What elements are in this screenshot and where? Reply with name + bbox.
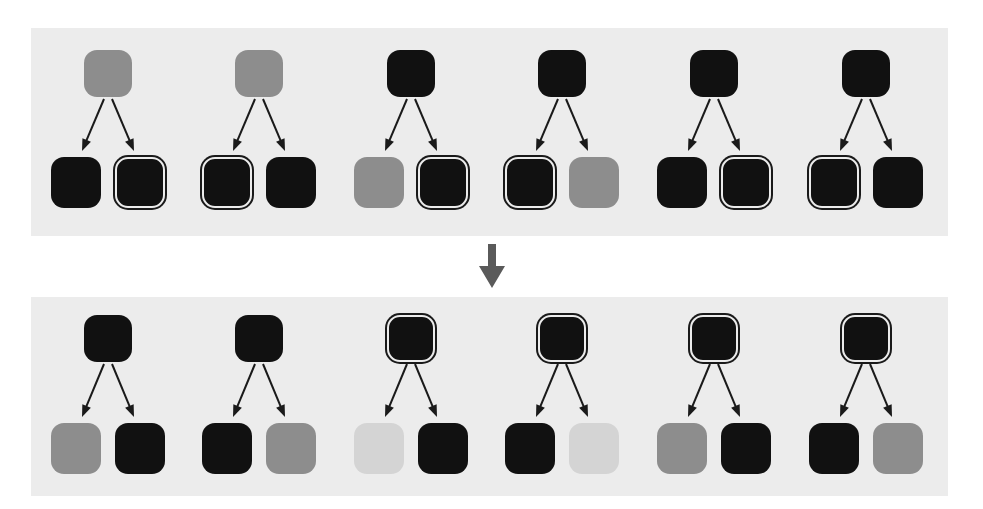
- child-node: [115, 157, 165, 208]
- edge-arrow-head: [125, 404, 134, 417]
- edge-arrow-line: [415, 364, 434, 409]
- down-arrow-icon: [470, 244, 514, 290]
- edge-arrow-line: [263, 364, 282, 409]
- edge-arrow-head: [840, 138, 849, 151]
- child-node: [721, 157, 771, 208]
- edge-arrow-line: [718, 99, 736, 143]
- edge-arrow-head: [731, 404, 740, 417]
- before-panel: [31, 28, 948, 236]
- arrow-layer: [31, 28, 948, 236]
- edge-arrow-line: [870, 99, 888, 143]
- child-node: [657, 423, 707, 474]
- parent-node: [84, 50, 132, 97]
- parent-node: [387, 315, 435, 362]
- parent-node: [235, 50, 283, 97]
- edge-arrow-head: [579, 404, 588, 417]
- parent-node: [842, 315, 890, 362]
- edge-arrow-line: [85, 364, 104, 409]
- parent-node: [842, 50, 890, 97]
- edge-arrow-head: [276, 138, 285, 151]
- edge-arrow-head: [883, 138, 892, 151]
- parent-node: [235, 315, 283, 362]
- edge-arrow-line: [236, 364, 255, 409]
- child-node: [505, 423, 555, 474]
- after-panel: [31, 297, 948, 496]
- edge-arrow-line: [388, 364, 407, 409]
- edge-arrow-line: [540, 99, 558, 143]
- edge-arrow-head: [688, 138, 697, 151]
- child-node: [873, 423, 923, 474]
- edge-arrow-head: [883, 404, 892, 417]
- parent-node: [387, 50, 435, 97]
- child-node: [418, 157, 468, 208]
- child-node: [569, 157, 619, 208]
- edge-arrow-line: [263, 99, 281, 143]
- child-node: [657, 157, 707, 208]
- edge-arrow-line: [843, 364, 862, 409]
- parent-node: [84, 315, 132, 362]
- child-node: [873, 157, 923, 208]
- edge-arrow-head: [536, 138, 545, 151]
- child-node: [266, 157, 316, 208]
- parent-node: [538, 50, 586, 97]
- child-node: [51, 157, 101, 208]
- edge-arrow-line: [566, 364, 585, 409]
- edge-arrow-head: [428, 138, 437, 151]
- child-node: [809, 157, 859, 208]
- edge-arrow-head: [385, 138, 394, 151]
- edge-arrow-head: [276, 404, 285, 417]
- edge-arrow-head: [82, 138, 91, 151]
- edge-arrow-head: [731, 138, 740, 151]
- edge-arrow-head: [840, 404, 849, 417]
- figure-canvas: [0, 0, 983, 509]
- edge-arrow-head: [233, 404, 242, 417]
- edge-arrow-line: [539, 364, 558, 409]
- child-node: [354, 157, 404, 208]
- child-node: [51, 423, 101, 474]
- parent-node: [690, 315, 738, 362]
- edge-arrow-line: [870, 364, 889, 409]
- edge-arrow-line: [691, 364, 710, 409]
- edge-arrow-line: [112, 99, 130, 143]
- child-node: [115, 423, 165, 474]
- edge-arrow-line: [389, 99, 407, 143]
- edge-arrow-line: [112, 364, 131, 409]
- edge-arrow-line: [415, 99, 433, 143]
- edge-arrow-line: [844, 99, 862, 143]
- edge-arrow-head: [233, 138, 242, 151]
- edge-arrow-line: [566, 99, 584, 143]
- parent-node: [690, 50, 738, 97]
- child-node: [505, 157, 555, 208]
- edge-arrow-head: [688, 404, 697, 417]
- child-node: [721, 423, 771, 474]
- edge-arrow-head: [82, 404, 91, 417]
- edge-arrow-line: [718, 364, 737, 409]
- edge-arrow-head: [385, 404, 394, 417]
- edge-arrow-head: [428, 404, 437, 417]
- edge-arrow-head: [536, 404, 545, 417]
- child-node: [418, 423, 468, 474]
- edge-arrow-line: [86, 99, 104, 143]
- child-node: [202, 423, 252, 474]
- child-node: [354, 423, 404, 474]
- parent-node: [538, 315, 586, 362]
- child-node: [202, 157, 252, 208]
- child-node: [266, 423, 316, 474]
- child-node: [569, 423, 619, 474]
- edge-arrow-head: [125, 138, 134, 151]
- edge-arrow-line: [692, 99, 710, 143]
- child-node: [809, 423, 859, 474]
- edge-arrow-head: [579, 138, 588, 151]
- edge-arrow-line: [237, 99, 255, 143]
